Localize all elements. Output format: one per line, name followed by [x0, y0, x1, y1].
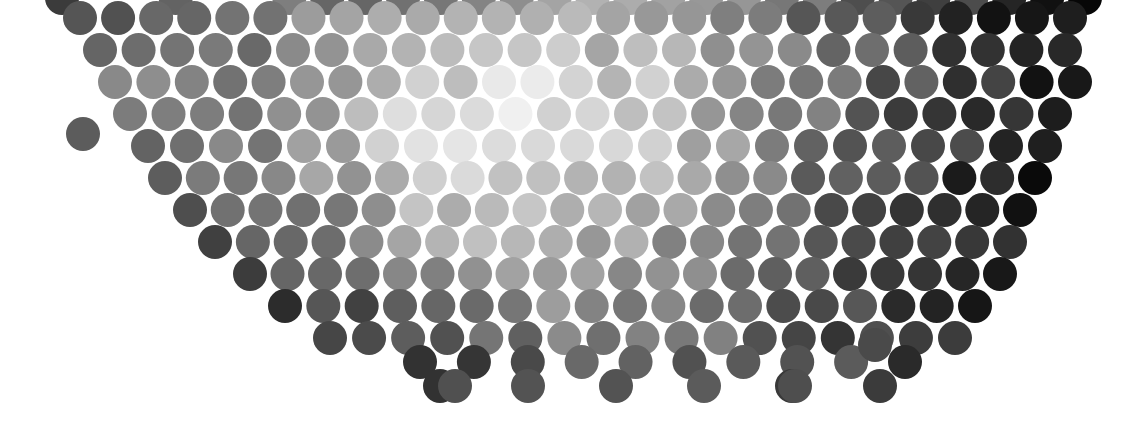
- dot: [526, 161, 560, 195]
- dot: [328, 65, 362, 99]
- dot: [653, 97, 687, 131]
- dot: [748, 1, 782, 35]
- dot: [939, 1, 973, 35]
- dot: [999, 97, 1033, 131]
- dot: [588, 193, 622, 227]
- dot: [596, 1, 630, 35]
- dot: [651, 289, 685, 323]
- dot: [392, 33, 426, 67]
- isolated-dot: [778, 369, 812, 403]
- dot: [520, 1, 554, 35]
- dot: [406, 1, 440, 35]
- dot: [261, 161, 295, 195]
- dot: [638, 129, 672, 163]
- dot: [884, 97, 918, 131]
- dot: [863, 1, 897, 35]
- dot: [816, 33, 850, 67]
- dot: [443, 129, 477, 163]
- dot: [63, 1, 97, 35]
- dot: [901, 1, 935, 35]
- dot: [894, 33, 928, 67]
- dot: [833, 257, 867, 291]
- dot: [237, 33, 271, 67]
- dot: [437, 193, 471, 227]
- dot: [691, 97, 725, 131]
- dot: [766, 289, 800, 323]
- dot: [932, 33, 966, 67]
- dot: [421, 257, 455, 291]
- dot: [148, 161, 182, 195]
- dot: [842, 225, 876, 259]
- dot: [866, 65, 900, 99]
- dot: [306, 289, 340, 323]
- dot: [430, 33, 464, 67]
- dot: [539, 225, 573, 259]
- dot: [751, 65, 785, 99]
- dot: [955, 225, 989, 259]
- dot: [626, 193, 660, 227]
- dot: [290, 65, 324, 99]
- dot: [701, 193, 735, 227]
- dot: [267, 97, 301, 131]
- dot: [576, 97, 610, 131]
- dot: [353, 33, 387, 67]
- dot: [152, 97, 186, 131]
- dot: [608, 257, 642, 291]
- dot: [511, 369, 545, 403]
- dot: [496, 257, 530, 291]
- dot: [646, 257, 680, 291]
- dot: [965, 193, 999, 227]
- dot: [306, 97, 340, 131]
- dot: [958, 289, 992, 323]
- dot: [177, 1, 211, 35]
- dot: [872, 129, 906, 163]
- dot: [513, 193, 547, 227]
- dot: [690, 289, 724, 323]
- dot: [917, 225, 951, 259]
- dot: [871, 257, 905, 291]
- dot: [498, 289, 532, 323]
- dot: [199, 33, 233, 67]
- dot: [920, 289, 954, 323]
- dot: [1003, 193, 1037, 227]
- dot: [571, 257, 605, 291]
- dot: [755, 129, 789, 163]
- dot: [365, 129, 399, 163]
- dot: [786, 1, 820, 35]
- dot: [101, 1, 135, 35]
- dot: [1009, 33, 1043, 67]
- dot: [950, 129, 984, 163]
- dot: [451, 161, 485, 195]
- dot: [413, 161, 447, 195]
- dot: [404, 129, 438, 163]
- dot: [739, 193, 773, 227]
- dot: [677, 129, 711, 163]
- dot: [170, 129, 204, 163]
- dot: [575, 289, 609, 323]
- dot: [672, 1, 706, 35]
- dot: [879, 225, 913, 259]
- dot: [623, 33, 657, 67]
- dot: [346, 257, 380, 291]
- dot: [236, 225, 270, 259]
- dot: [268, 289, 302, 323]
- dot: [546, 33, 580, 67]
- dot: [1018, 161, 1052, 195]
- dot: [942, 161, 976, 195]
- dot: [828, 65, 862, 99]
- dot: [312, 225, 346, 259]
- dot: [728, 225, 762, 259]
- dot: [843, 289, 877, 323]
- dot: [330, 1, 364, 35]
- dot: [989, 129, 1023, 163]
- dot: [233, 257, 267, 291]
- dot: [888, 345, 922, 379]
- dot: [315, 33, 349, 67]
- dot: [324, 193, 358, 227]
- dot: [367, 65, 401, 99]
- isolated-dot: [66, 117, 100, 151]
- dot: [904, 65, 938, 99]
- dot: [508, 33, 542, 67]
- dot: [559, 65, 593, 99]
- dot: [337, 161, 371, 195]
